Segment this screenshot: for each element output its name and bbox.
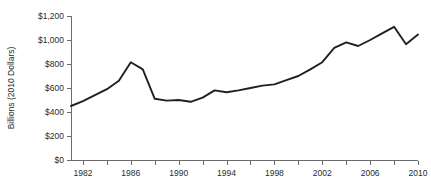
x-axis-tick-label: 1982: [74, 168, 93, 178]
y-axis-tick-label: $200: [45, 131, 64, 141]
x-axis: 19821986199019941998200220062010: [71, 161, 428, 179]
x-axis-tick-label: 1998: [265, 168, 284, 178]
chart-canvas: $0$200$400$600$800$1,000$1,200 198219861…: [0, 0, 431, 192]
series-line-value: [71, 27, 418, 106]
y-axis: $0$200$400$600$800$1,000$1,200: [38, 11, 72, 165]
x-axis-tick-label: 2006: [361, 168, 380, 178]
y-axis-tick-label: $800: [45, 59, 64, 69]
x-axis-tick-label: 1994: [217, 168, 236, 178]
y-axis-title: Billions (2010 Dollars): [6, 46, 16, 129]
x-axis-tick-label: 2002: [313, 168, 332, 178]
y-axis-tick-label: $0: [55, 155, 65, 165]
x-axis-tick-label: 1990: [169, 168, 188, 178]
line-chart: $0$200$400$600$800$1,000$1,200 198219861…: [0, 0, 431, 192]
x-axis-tick-label: 2010: [409, 168, 428, 178]
y-axis-tick-label: $1,200: [38, 11, 64, 21]
y-axis-tick-label: $600: [45, 83, 64, 93]
data-series: [71, 27, 418, 106]
y-axis-title-label: Billions (2010 Dollars): [6, 46, 16, 129]
x-axis-tick-label: 1986: [121, 168, 140, 178]
y-axis-tick-label: $400: [45, 107, 64, 117]
y-axis-tick-label: $1,000: [38, 35, 64, 45]
